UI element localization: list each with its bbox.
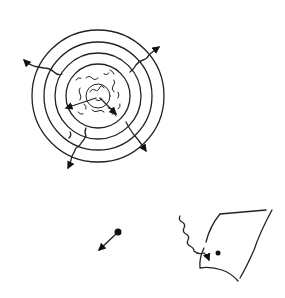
random-walk-squiggles xyxy=(76,70,120,116)
arrow-down-left-icon xyxy=(99,234,116,250)
surface xyxy=(179,210,272,281)
shell-3 xyxy=(44,42,152,150)
arrow-down-right-icon xyxy=(100,98,116,114)
particle xyxy=(99,229,122,251)
diagram-canvas xyxy=(0,0,285,298)
star-shells xyxy=(32,30,164,162)
incoming-photon xyxy=(179,216,209,260)
shell-inner xyxy=(66,64,130,128)
shell-outer xyxy=(32,30,164,162)
hit-point xyxy=(216,251,221,256)
